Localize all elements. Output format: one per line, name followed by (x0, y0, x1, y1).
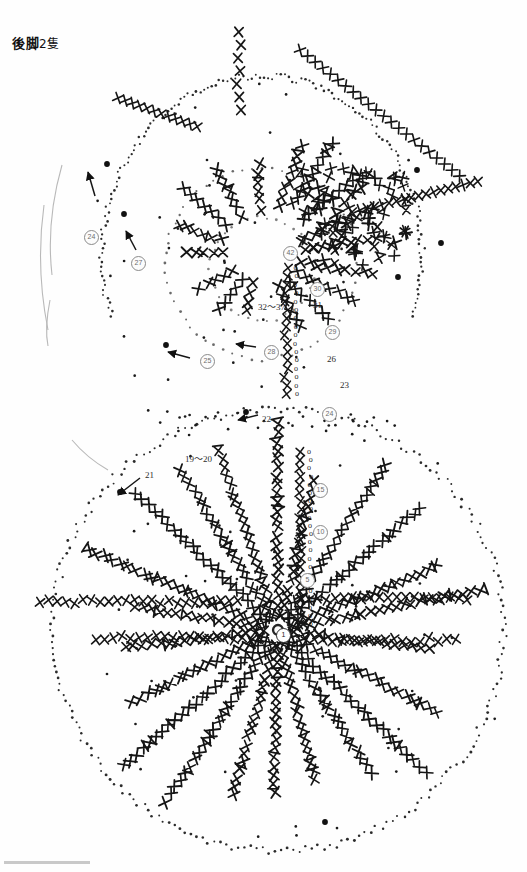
round-label-r21: 21 (145, 470, 154, 480)
pencil-arc-1 (50, 165, 62, 275)
round-marker-m24: 24 (84, 230, 99, 245)
round-marker-m30: 30 (310, 282, 325, 297)
pencil-arc-4 (72, 440, 108, 470)
round-label-r22: 22 (262, 414, 271, 424)
round-marker-m25: 25 (200, 354, 215, 369)
round-marker-m27: 27 (131, 256, 146, 271)
pencil-arc-3 (47, 300, 50, 346)
arrow-22 (238, 415, 258, 420)
round-marker-m29: 29 (325, 325, 340, 340)
round-label-r26: 26 (327, 354, 336, 364)
svg-text:o: o (309, 619, 313, 628)
arrow-24 (88, 172, 95, 196)
round-label-r19_20: 19〜20 (185, 452, 212, 465)
arrow-27 (126, 231, 136, 250)
arrow-25 (168, 352, 190, 358)
round-marker-m24b: 24 (322, 407, 337, 422)
round-marker-m15: 15 (313, 483, 328, 498)
round-marker-m28: 28 (264, 345, 279, 360)
round-marker-m5: 5 (300, 573, 315, 588)
pattern-page: 後脚2隻 ooooooooooooooooooooooooooooooooooo… (0, 0, 527, 872)
stitch-symbols: oooooooooooooooooooooooooooooooooooooo (35, 27, 496, 838)
arrow-28 (236, 344, 256, 347)
round-label-r32_37: 32〜37 (258, 300, 285, 313)
round-label-r31: 31 (313, 300, 322, 310)
arrow-annotations (88, 172, 258, 495)
round-label-r23: 23 (340, 380, 349, 390)
footer-rule (4, 861, 90, 864)
round-marker-m1: 1 (276, 628, 291, 643)
crochet-chart-canvas: oooooooooooooooooooooooooooooooooooooo (0, 0, 527, 872)
pencil-arc-2 (41, 205, 48, 330)
round-marker-m10: 10 (313, 525, 328, 540)
round-marker-m42: 42 (283, 246, 298, 261)
pencil-marks (41, 165, 108, 470)
svg-text:o: o (295, 389, 299, 398)
